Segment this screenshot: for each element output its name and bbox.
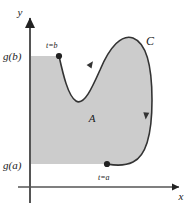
label-t-equals-b: t=b [46, 41, 58, 50]
direction-arrow-upper-left [87, 59, 96, 68]
y-axis-label: y [17, 6, 23, 18]
figure-container: t=b t=a g(b) g(a) y x A C [0, 0, 193, 207]
curve-label-C: C [146, 34, 155, 48]
point-t-equals-b [56, 53, 62, 59]
tick-label-g-of-a: g(a) [3, 159, 22, 172]
shaded-region-A [30, 37, 152, 165]
point-t-equals-a [104, 161, 110, 167]
tick-label-g-of-b: g(b) [3, 50, 22, 63]
math-diagram-svg: t=b t=a g(b) g(a) y x A C [0, 0, 193, 207]
region-label-A: A [88, 112, 96, 124]
x-axis-label: x [178, 190, 184, 202]
label-t-equals-a: t=a [98, 173, 110, 182]
